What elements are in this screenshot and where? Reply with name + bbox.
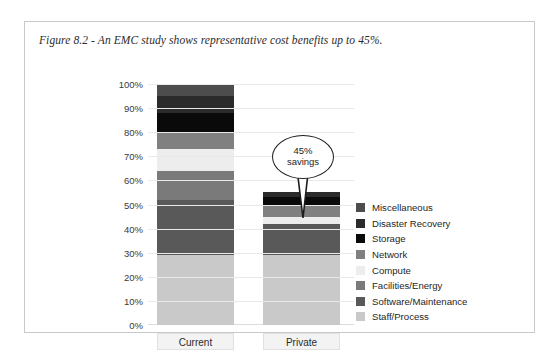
legend-swatch-icon	[356, 234, 365, 243]
x-axis: Current Private	[148, 333, 354, 353]
plot-area	[148, 84, 354, 325]
gridline	[148, 229, 354, 230]
gridline	[148, 132, 354, 133]
legend-swatch-icon	[356, 219, 365, 228]
gridline	[148, 108, 354, 109]
bar-segment[interactable]	[157, 84, 234, 96]
legend-label: Staff/Process	[372, 311, 429, 322]
y-tick-label: 80%	[124, 127, 143, 138]
gridline	[148, 205, 354, 206]
legend-item[interactable]: Staff/Process	[356, 309, 496, 325]
figure-caption: Figure 8.2 - An EMC study shows represen…	[39, 34, 383, 46]
legend-label: Compute	[372, 265, 411, 276]
legend-label: Miscellaneous	[372, 202, 433, 213]
y-tick-label: 0%	[129, 320, 143, 331]
y-tick-label: 10%	[124, 295, 143, 306]
legend-swatch-icon	[356, 266, 365, 275]
bar-segment[interactable]	[157, 255, 234, 325]
callout-bubble: 45% savings	[272, 135, 334, 179]
legend-item[interactable]: Storage	[356, 231, 496, 247]
x-tick-label-current: Current	[157, 333, 234, 350]
bar-segment[interactable]	[157, 171, 234, 200]
legend-label: Storage	[372, 233, 406, 244]
legend-item[interactable]: Miscellaneous	[356, 200, 496, 216]
legend-swatch-icon	[356, 281, 365, 290]
x-tick-label-private: Private	[263, 333, 340, 350]
savings-callout: 45% savings	[272, 135, 334, 182]
legend-item[interactable]: Network	[356, 247, 496, 263]
legend-swatch-icon	[356, 297, 365, 306]
legend-item[interactable]: Disaster Recovery	[356, 216, 496, 232]
gridline	[148, 277, 354, 278]
y-axis: 100%90%80%70%60%50%40%30%20%10%0%	[103, 84, 143, 325]
bar-segment[interactable]	[263, 255, 340, 325]
legend-item[interactable]: Compute	[356, 262, 496, 278]
legend-label: Network	[372, 249, 407, 260]
legend-item[interactable]: Software/Maintenance	[356, 294, 496, 310]
bar-segment[interactable]	[157, 149, 234, 171]
y-tick-label: 100%	[119, 79, 143, 90]
y-tick-label: 90%	[124, 103, 143, 114]
bar-segment[interactable]	[157, 200, 234, 255]
legend-swatch-icon	[356, 203, 365, 212]
bar-segment[interactable]	[157, 113, 234, 132]
y-tick-label: 30%	[124, 247, 143, 258]
chart-legend: MiscellaneousDisaster RecoveryStorageNet…	[356, 200, 496, 325]
legend-swatch-icon	[356, 250, 365, 259]
y-tick-label: 50%	[124, 199, 143, 210]
bar-segment[interactable]	[157, 132, 234, 149]
gridline	[148, 253, 354, 254]
legend-label: Facilities/Energy	[372, 280, 442, 291]
figure-container: Figure 8.2 - An EMC study shows represen…	[24, 21, 535, 333]
y-tick-label: 70%	[124, 151, 143, 162]
legend-swatch-icon	[356, 312, 365, 321]
legend-label: Software/Maintenance	[372, 296, 467, 307]
y-tick-label: 20%	[124, 271, 143, 282]
y-tick-label: 40%	[124, 223, 143, 234]
bar-segment[interactable]	[157, 96, 234, 113]
legend-label: Disaster Recovery	[372, 218, 450, 229]
callout-caption: savings	[287, 157, 319, 168]
gridline	[148, 301, 354, 302]
legend-item[interactable]: Facilities/Energy	[356, 278, 496, 294]
gridline	[148, 84, 354, 85]
y-tick-label: 60%	[124, 175, 143, 186]
